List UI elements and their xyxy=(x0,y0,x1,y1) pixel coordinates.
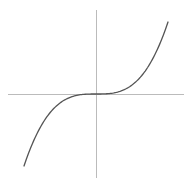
cubic-function-plot xyxy=(0,0,192,181)
